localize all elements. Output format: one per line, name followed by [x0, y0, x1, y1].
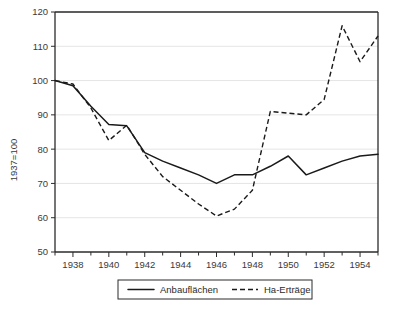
x-tick-label: 1950	[278, 259, 299, 270]
y-tick-label: 80	[37, 144, 48, 155]
line-chart: 5060708090100110120 19381940194219441946…	[0, 0, 393, 310]
x-tick-label: 1954	[349, 259, 370, 270]
gridlines-group	[55, 12, 378, 218]
y-axis-tick-labels: 5060708090100110120	[32, 6, 48, 257]
x-tick-label: 1946	[206, 259, 227, 270]
y-tick-label: 110	[33, 41, 48, 52]
series-line-1	[55, 26, 378, 216]
x-tick-label: 1942	[134, 259, 155, 270]
chart-figure: 5060708090100110120 19381940194219441946…	[0, 0, 393, 310]
x-tick-label: 1952	[314, 259, 335, 270]
x-tick-label: 1940	[98, 259, 119, 270]
y-tick-label: 120	[32, 6, 48, 17]
x-axis-ticks	[55, 252, 378, 257]
x-tick-label: 1944	[170, 259, 191, 270]
legend-label-0: Anbauflächen	[160, 284, 218, 295]
x-tick-label: 1938	[62, 259, 83, 270]
x-axis-tick-labels: 193819401942194419461948195019521954	[62, 259, 370, 270]
y-tick-label: 50	[37, 246, 48, 257]
y-tick-label: 100	[32, 75, 48, 86]
y-tick-label: 70	[37, 178, 48, 189]
y-axis-title: 1937=100	[8, 139, 19, 182]
data-series-group	[55, 26, 378, 216]
y-tick-label: 60	[37, 212, 48, 223]
y-tick-label: 90	[37, 109, 48, 120]
legend-label-1: Ha-Erträge	[264, 284, 310, 295]
x-tick-label: 1948	[242, 259, 263, 270]
chart-legend: AnbauflächenHa-Erträge	[118, 280, 312, 299]
